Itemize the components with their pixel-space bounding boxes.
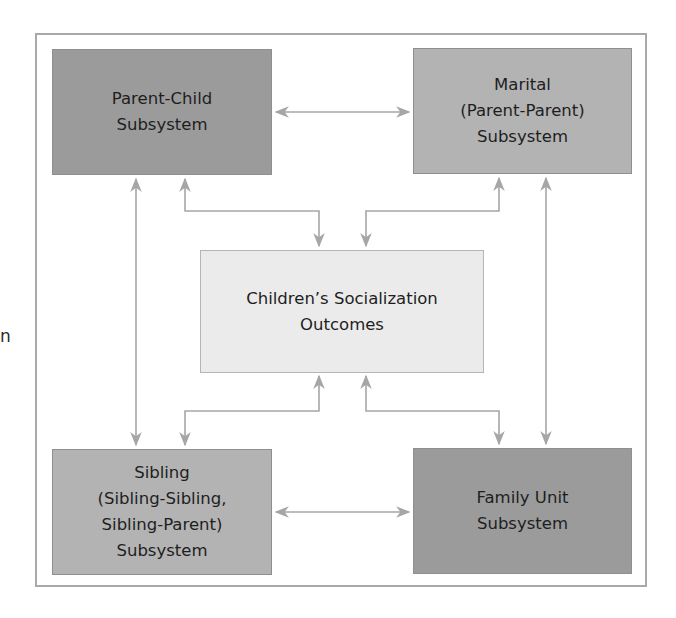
arrow-parentchild-center bbox=[185, 179, 319, 246]
node-sibling: Sibling (Sibling-Sibling, Sibling-Parent… bbox=[52, 449, 272, 575]
node-family-unit: Family Unit Subsystem bbox=[413, 448, 632, 574]
node-parent-child: Parent-Child Subsystem bbox=[52, 49, 272, 175]
node-children-socialization-outcomes: Children’s Socialization Outcomes bbox=[200, 250, 484, 373]
node-label: Sibling (Sibling-Sibling, Sibling-Parent… bbox=[98, 460, 227, 564]
node-label: Children’s Socialization Outcomes bbox=[246, 286, 438, 338]
node-label: Family Unit Subsystem bbox=[477, 485, 569, 537]
arrow-center-sibling bbox=[185, 376, 319, 445]
arrow-marital-center bbox=[366, 178, 499, 246]
node-label: Parent-Child Subsystem bbox=[112, 86, 212, 138]
node-marital: Marital (Parent-Parent) Subsystem bbox=[413, 48, 632, 174]
arrow-center-family bbox=[366, 376, 499, 444]
node-label: Marital (Parent-Parent) Subsystem bbox=[460, 72, 584, 150]
